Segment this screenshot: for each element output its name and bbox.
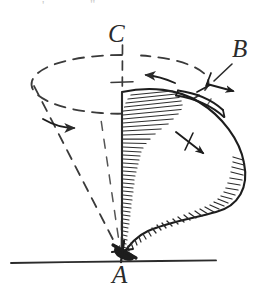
pivot-point <box>112 241 136 262</box>
label-apex-A: A <box>112 262 127 287</box>
spin-arrow-at-B <box>207 84 233 91</box>
figure-root: ' " <box>0 0 273 290</box>
precession-arrow-back <box>146 75 175 83</box>
label-rim-point-B: B <box>232 36 247 61</box>
precession-arrow-front <box>43 119 74 128</box>
axis-center-tick <box>111 82 133 83</box>
top-body <box>122 89 245 256</box>
label-B-leader <box>214 64 232 81</box>
label-axis-top-C: C <box>108 21 125 46</box>
